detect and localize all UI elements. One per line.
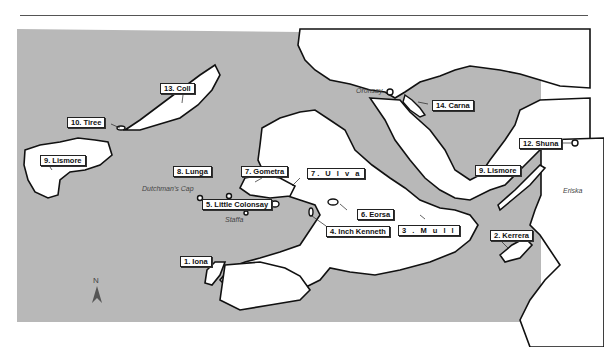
label-gometra: 7. Gometra xyxy=(241,166,288,177)
label-little-colonsay: 5. Little Colonsay xyxy=(202,199,272,210)
label-tiree: 9. Lismore xyxy=(40,155,86,166)
label-dutchmans-cap: Dutchman's Cap xyxy=(142,185,194,192)
gometra-islet xyxy=(227,194,232,199)
label-gunna: 10. Tiree xyxy=(67,117,105,128)
shuna-islet xyxy=(572,140,578,146)
label-eriska: Eriska xyxy=(563,187,582,194)
label-mull: 3 . M u l l xyxy=(398,225,460,236)
oronsay-islet xyxy=(387,89,393,95)
label-shuna: 12. Shuna xyxy=(519,138,562,149)
label-carna: 14. Carna xyxy=(432,100,474,111)
inch-kenneth-islet xyxy=(309,208,313,216)
label-oronsay: Oronsay xyxy=(356,87,382,94)
label-iona: 1. Iona xyxy=(180,256,212,267)
label-kerrera: 2. Kerrera xyxy=(490,230,533,241)
label-eorsa: 6. Eorsa xyxy=(357,209,394,220)
label-lismore: 9. Lismore xyxy=(475,165,521,176)
label-coll: 13. Coll xyxy=(160,83,195,94)
gunna-islet xyxy=(117,126,125,130)
label-lunga: 8. Lunga xyxy=(173,166,212,177)
label-staffa: Staffa xyxy=(225,216,243,223)
north-arrow: N xyxy=(90,276,104,306)
staffa-islet xyxy=(244,211,248,215)
label-inch-kenneth: 4. Inch Kenneth xyxy=(326,226,390,237)
eorsa-islet xyxy=(328,199,338,205)
north-arrow-icon xyxy=(90,276,104,306)
little-colonsay-islet xyxy=(271,201,279,207)
label-ulva: 7. U l v a xyxy=(307,168,365,179)
